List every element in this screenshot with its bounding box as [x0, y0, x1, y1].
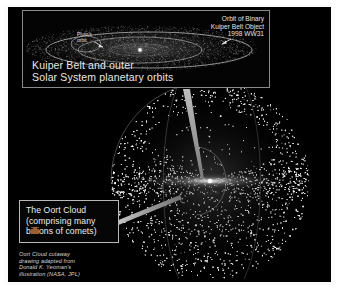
kbo-label: Orbit of Binary Kuiper Belt Object 1998 … [211, 15, 264, 38]
sun-dot-icon [208, 179, 212, 183]
credit-text: Oort Cloud cutaway drawing adapted from … [19, 251, 80, 277]
inset-title: Kuiper Belt and outer Solar System plane… [32, 60, 174, 83]
figure-root: Orbit of Binary Kuiper Belt Object 1998 … [0, 0, 339, 289]
pluto-orbit-label: Pluto's orbit [77, 32, 92, 43]
oort-cloud-callout-text: The Oort Cloud (comprising many billions… [26, 205, 97, 237]
sun-dot-icon [138, 48, 141, 51]
kuiper-belt-inset[interactable]: Orbit of Binary Kuiper Belt Object 1998 … [22, 10, 270, 88]
oort-cloud-callout[interactable]: The Oort Cloud (comprising many billions… [19, 200, 119, 243]
figure-plate: Orbit of Binary Kuiper Belt Object 1998 … [8, 7, 331, 282]
